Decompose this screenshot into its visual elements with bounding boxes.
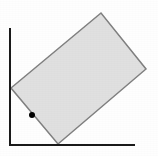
geometry-figure <box>0 0 158 156</box>
vertex-point-marker <box>29 112 35 118</box>
figure-container <box>0 0 158 156</box>
